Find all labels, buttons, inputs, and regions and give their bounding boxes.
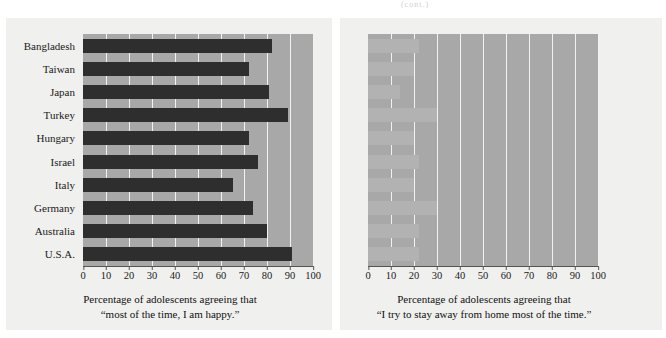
x-tick-label: 80 (547, 270, 558, 281)
x-tick-mark (460, 266, 461, 270)
x-tick-label: 70 (239, 270, 250, 281)
right-x-tick-labels: 0102030405060708090100 (368, 270, 598, 288)
x-tick-label: 90 (570, 270, 581, 281)
x-tick-mark (221, 266, 222, 270)
x-tick-mark (313, 266, 314, 270)
left-bar-series (83, 34, 313, 266)
right-plot-area (368, 34, 598, 266)
bar-row (368, 85, 598, 99)
x-tick-mark (244, 266, 245, 270)
left-x-tick-labels: 0102030405060708090100 (83, 270, 313, 288)
bar (83, 224, 267, 238)
bar-row (83, 108, 313, 122)
bar (368, 247, 419, 261)
bar (83, 62, 249, 76)
bar (368, 131, 414, 145)
x-tick-mark (391, 266, 392, 270)
left-category-labels: BangladeshTaiwanJapanTurkeyHungaryIsrael… (6, 34, 79, 266)
x-tick-label: 50 (193, 270, 204, 281)
x-tick-mark (598, 266, 599, 270)
x-tick-label: 100 (305, 270, 321, 281)
bar (83, 178, 233, 192)
bar (368, 224, 419, 238)
bar (83, 201, 253, 215)
x-tick-mark (529, 266, 530, 270)
right-caption-line1: Percentage of adolescents agreeing that (324, 292, 644, 307)
x-tick-label: 30 (432, 270, 443, 281)
right-caption-line2: “I try to stay away from home most of th… (324, 307, 644, 322)
category-label-turkey: Turkey (44, 108, 75, 122)
category-label-u-s-a-: U.S.A. (45, 247, 75, 261)
bar (83, 155, 258, 169)
top-note: (cont.) (355, 0, 475, 12)
left-caption-line1: Percentage of adolescents agreeing that (30, 292, 310, 307)
x-tick-mark (83, 266, 84, 270)
bar (83, 247, 292, 261)
bar (368, 155, 419, 169)
category-label-japan: Japan (50, 85, 75, 99)
bar (368, 108, 437, 122)
left-plot-area (83, 34, 313, 266)
x-tick-mark (414, 266, 415, 270)
bar-row (368, 62, 598, 76)
bar-row (368, 39, 598, 53)
x-tick-mark (129, 266, 130, 270)
x-tick-label: 40 (455, 270, 466, 281)
x-tick-label: 10 (386, 270, 397, 281)
x-tick-mark (198, 266, 199, 270)
right-x-axis-caption: Percentage of adolescents agreeing that … (324, 292, 644, 322)
x-tick-mark (437, 266, 438, 270)
bar (83, 108, 288, 122)
x-tick-mark (175, 266, 176, 270)
bar-row (83, 131, 313, 145)
x-tick-mark (575, 266, 576, 270)
bar-row (83, 224, 313, 238)
x-tick-label: 80 (262, 270, 273, 281)
bar (83, 39, 272, 53)
bar-row (83, 201, 313, 215)
bar-row (83, 247, 313, 261)
x-tick-label: 60 (501, 270, 512, 281)
x-tick-label: 40 (170, 270, 181, 281)
left-caption-line2: “most of the time, I am happy.” (30, 307, 310, 322)
left-x-axis-caption: Percentage of adolescents agreeing that … (30, 292, 310, 322)
x-tick-label: 0 (365, 270, 370, 281)
category-label-italy: Italy (55, 178, 75, 192)
x-tick-mark (290, 266, 291, 270)
x-tick-mark (506, 266, 507, 270)
x-tick-mark (483, 266, 484, 270)
bar-row (368, 155, 598, 169)
bar-row (368, 224, 598, 238)
bar (83, 85, 269, 99)
bar-row (83, 85, 313, 99)
category-label-bangladesh: Bangladesh (24, 39, 75, 53)
bar-row (368, 247, 598, 261)
x-tick-label: 20 (124, 270, 135, 281)
x-tick-label: 0 (80, 270, 85, 281)
bar (368, 178, 414, 192)
bar (368, 39, 419, 53)
category-label-australia: Australia (35, 224, 75, 238)
left-chart-panel: BangladeshTaiwanJapanTurkeyHungaryIsrael… (6, 18, 332, 330)
gridline (598, 34, 599, 266)
bar (368, 201, 437, 215)
bar-row (368, 201, 598, 215)
x-tick-label: 90 (285, 270, 296, 281)
category-label-israel: Israel (51, 155, 75, 169)
bar (368, 85, 400, 99)
bar-row (83, 62, 313, 76)
x-tick-mark (552, 266, 553, 270)
x-tick-label: 30 (147, 270, 158, 281)
bar (83, 131, 249, 145)
x-tick-label: 20 (409, 270, 420, 281)
category-label-taiwan: Taiwan (43, 62, 75, 76)
figure-page: (cont.) BangladeshTaiwanJapanTurkeyHunga… (0, 0, 666, 338)
bar-row (368, 108, 598, 122)
x-tick-label: 70 (524, 270, 535, 281)
right-bar-series (368, 34, 598, 266)
right-chart-panel: 0102030405060708090100 Percentage of ado… (340, 18, 662, 330)
x-tick-label: 60 (216, 270, 227, 281)
bar-row (368, 131, 598, 145)
x-tick-mark (152, 266, 153, 270)
category-label-germany: Germany (34, 201, 75, 215)
